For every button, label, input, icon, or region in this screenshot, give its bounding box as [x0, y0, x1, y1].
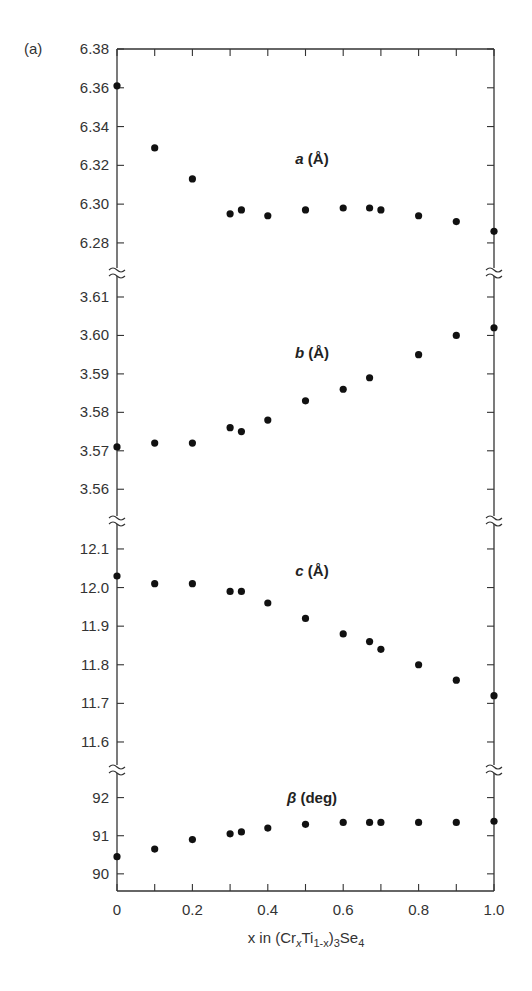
x-axis-title: x in (CrxTi1-x)3Se4 — [248, 929, 365, 949]
data-point — [453, 819, 460, 826]
axis-break-mark — [109, 268, 125, 272]
data-point — [366, 374, 373, 381]
y-tick-label: 12.0 — [80, 579, 109, 596]
data-point — [490, 228, 497, 235]
data-point — [113, 853, 120, 860]
axis-break-mark — [486, 765, 502, 769]
panel-label-beta: β (deg) — [286, 789, 337, 806]
data-point — [189, 440, 196, 447]
y-tick-label: 11.6 — [81, 733, 109, 750]
x-tick-label: 0.6 — [333, 901, 354, 918]
data-point — [490, 692, 497, 699]
lattice-parameter-chart: (a) 00.20.40.60.81.0 6.286.306.326.346.3… — [0, 0, 532, 991]
y-tick-label: 90 — [92, 865, 109, 882]
axis-break-mark — [109, 516, 125, 520]
panel-label-c: c (Å) — [295, 562, 328, 579]
x-axis-ticks: 00.20.40.60.81.0 — [113, 49, 505, 918]
data-point — [415, 819, 422, 826]
y-tick-label: 6.36 — [80, 79, 109, 96]
figure-label: (a) — [24, 40, 42, 57]
data-point — [151, 580, 158, 587]
data-point — [227, 830, 234, 837]
data-point — [151, 440, 158, 447]
data-point — [366, 638, 373, 645]
y-tick-label: 3.57 — [80, 442, 109, 459]
data-point — [113, 443, 120, 450]
data-point — [151, 845, 158, 852]
y-tick-label: 6.30 — [80, 195, 109, 212]
y-tick-label: 3.60 — [80, 326, 109, 343]
axis-break-mark — [486, 268, 502, 272]
panels: 6.286.306.326.346.366.38a (Å)3.563.573.5… — [80, 40, 498, 882]
data-point — [377, 819, 384, 826]
data-point — [377, 646, 384, 653]
y-tick-label: 6.32 — [80, 156, 109, 173]
data-point — [453, 332, 460, 339]
data-point — [264, 824, 271, 831]
x-tick-label: 0.4 — [257, 901, 278, 918]
data-point — [238, 828, 245, 835]
data-point — [453, 218, 460, 225]
y-tick-label: 3.61 — [80, 288, 109, 305]
data-point — [340, 386, 347, 393]
data-point — [189, 580, 196, 587]
x-tick-label: 0.8 — [408, 901, 429, 918]
data-point — [113, 572, 120, 579]
panel-label-a: a (Å) — [295, 150, 328, 167]
y-tick-label: 6.38 — [80, 40, 109, 57]
y-tick-label: 11.7 — [81, 694, 109, 711]
x-tick-label: 0.2 — [182, 901, 203, 918]
data-point — [366, 204, 373, 211]
data-point — [238, 428, 245, 435]
data-point — [377, 206, 384, 213]
panel-beta: 909192β (deg) — [92, 789, 497, 882]
y-tick-label: 3.59 — [80, 365, 109, 382]
x-tick-label: 0 — [113, 901, 121, 918]
y-tick-label: 11.9 — [81, 617, 109, 634]
data-point — [264, 599, 271, 606]
data-point — [340, 630, 347, 637]
data-point — [238, 206, 245, 213]
data-point — [302, 397, 309, 404]
data-point — [490, 818, 497, 825]
data-point — [340, 819, 347, 826]
data-point — [302, 821, 309, 828]
panel-b: 3.563.573.583.593.603.61b (Å) — [80, 288, 498, 497]
data-point — [238, 588, 245, 595]
axis-break-mark — [109, 765, 125, 769]
y-tick-label: 92 — [92, 789, 109, 806]
axis-break-mark — [486, 516, 502, 520]
data-point — [227, 588, 234, 595]
data-point — [415, 661, 422, 668]
panel-label-b: b (Å) — [295, 344, 329, 361]
x-tick-label: 1.0 — [484, 901, 505, 918]
data-point — [227, 424, 234, 431]
data-point — [264, 416, 271, 423]
data-point — [490, 324, 497, 331]
panel-c: 11.611.711.811.912.012.1c (Å) — [80, 540, 498, 750]
plot-frame — [117, 49, 494, 891]
data-point — [302, 615, 309, 622]
y-tick-label: 3.56 — [80, 480, 109, 497]
data-point — [151, 144, 158, 151]
data-point — [366, 819, 373, 826]
data-point — [264, 212, 271, 219]
data-point — [340, 204, 347, 211]
data-point — [415, 212, 422, 219]
panel-a: 6.286.306.326.346.366.38a (Å) — [80, 40, 498, 251]
data-point — [189, 836, 196, 843]
y-tick-label: 91 — [92, 827, 109, 844]
data-point — [453, 677, 460, 684]
data-point — [189, 175, 196, 182]
data-point — [415, 351, 422, 358]
data-point — [227, 210, 234, 217]
y-tick-label: 6.34 — [80, 118, 109, 135]
y-tick-label: 11.8 — [81, 656, 109, 673]
y-tick-label: 12.1 — [80, 540, 109, 557]
data-point — [302, 206, 309, 213]
y-tick-label: 6.28 — [80, 234, 109, 251]
data-point — [113, 82, 120, 89]
y-tick-label: 3.58 — [80, 403, 109, 420]
